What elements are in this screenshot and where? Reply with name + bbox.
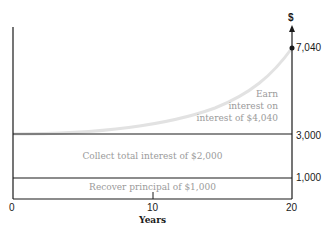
arrow-up-icon [289, 25, 295, 32]
y-unit-label: $ [288, 12, 294, 23]
collect-annotation: Collect total interest of $2,000 [13, 151, 292, 161]
compound-interest-chart [0, 0, 335, 237]
x-axis-title: Years [139, 215, 166, 225]
recover-annotation: Recover principal of $1,000 [13, 182, 292, 192]
earn-line-1: Earn [197, 88, 278, 100]
x-label-0: 0 [9, 202, 15, 213]
endpoint-marker [290, 46, 295, 51]
x-label-20: 20 [286, 202, 297, 213]
earn-line-3: interest of $4,040 [197, 112, 278, 124]
earn-line-2: interest on [197, 100, 278, 112]
earn-annotation: Earn interest on interest of $4,040 [197, 88, 278, 124]
y-label-3000: 3,000 [296, 130, 321, 141]
y-label-1000: 1,000 [296, 172, 321, 183]
y-label-7040: 7,040 [296, 42, 321, 53]
x-label-10: 10 [147, 202, 158, 213]
